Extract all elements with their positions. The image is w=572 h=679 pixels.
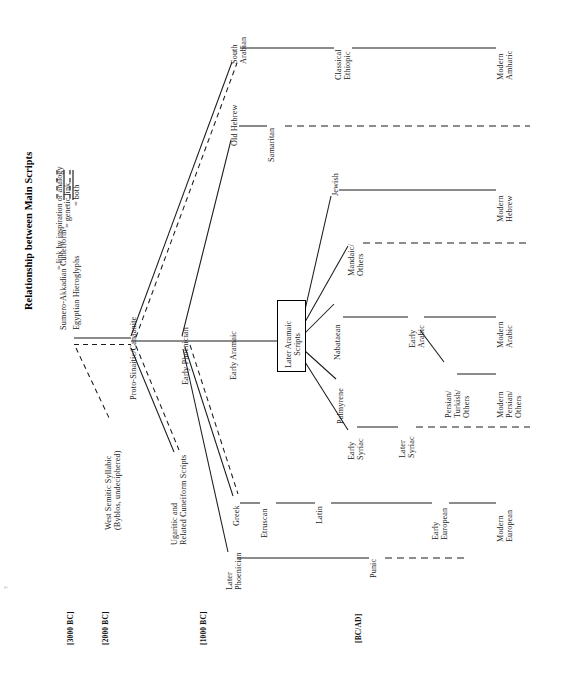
timeline-marker-1000bc: [1000 BC]	[199, 611, 208, 645]
node-label-early-arabic: Early Arabic	[408, 325, 426, 348]
node-label-modern-hebrew: Modern Hebrew	[496, 195, 514, 222]
node-label-early-arabic-line2: Arabic	[417, 325, 426, 348]
node-label-latin: Latin	[315, 506, 324, 524]
legend-label-both: = both	[72, 185, 81, 206]
node-label-early-syriac-line1: Early	[347, 438, 356, 460]
timeline-marker-bcad: [BC/AD]	[354, 614, 363, 643]
node-label-egyptian-hieroglyphs: Egyptian Hieroglyphs	[72, 256, 81, 330]
edge-protosinaitic-southarabian-dashed	[136, 63, 237, 337]
node-label-modern-persian-others: Modern Persian/ Others	[496, 391, 524, 418]
node-label-persian-turkish-others: Persian/ Turkish/ Others	[444, 390, 472, 418]
node-label-later-phoenician: Later Phoenician	[225, 552, 243, 590]
edge-protosinaitic-ugaritic-dashed	[136, 346, 179, 450]
legend-label-genetic: = genetic link	[63, 183, 72, 228]
node-label-later-phoenician-line1: Later	[225, 552, 234, 590]
node-label-modern-amharic-line1: Modern	[496, 51, 505, 80]
node-label-classical-ethiopic: Classical Ethiopic	[334, 49, 352, 80]
node-label-jewish: Jewish	[331, 173, 340, 196]
node-label-west-semitic-syllabic-line1: West Semitic Syllabic	[104, 451, 113, 531]
node-label-later-aramaic-line2: Scripts	[293, 321, 302, 368]
node-label-west-semitic-syllabic-line2: (Byblos, undeciphered)	[113, 451, 122, 531]
node-label-south-arabian-line1: South	[230, 37, 239, 64]
node-label-later-syriac-line2: Syriac	[407, 436, 416, 458]
node-label-modern-hebrew-line2: Hebrew	[505, 195, 514, 222]
node-label-early-european: Early European	[431, 508, 449, 540]
node-label-early-syriac-line2: Syriac	[356, 438, 365, 460]
node-label-west-semitic-syllabic: West Semitic Syllabic (Byblos, undeciphe…	[104, 451, 122, 531]
edge-egyptian-westsemitic	[76, 348, 110, 420]
node-label-modern-arabic-line2: Arabic	[505, 321, 514, 348]
node-label-persian-turkish-line2: Turkish/	[453, 390, 462, 418]
node-label-palmyrene: Palmyrene	[336, 388, 345, 424]
node-label-modern-arabic-line1: Modern	[496, 321, 505, 348]
node-label-modern-persian-line2: Persian/	[505, 391, 514, 418]
edge-earlyphoenician-oldhebrew	[182, 140, 231, 336]
edge-lateraramaic-nabataean	[305, 304, 334, 333]
node-label-sumero-akkadian-cuneiform: Sumero-Akkadian Cuneiform	[59, 229, 68, 330]
node-label-later-aramaic-line1: Later Aramaic	[284, 321, 293, 368]
node-label-early-european-line1: Early	[431, 508, 440, 540]
node-label-samaritan: Samaritan	[267, 128, 276, 162]
node-label-early-arabic-line1: Early	[408, 325, 417, 348]
node-label-ugaritic-line1: Ugaritic and	[170, 455, 179, 545]
node-label-south-arabian: South Arabian	[230, 37, 248, 64]
node-label-south-arabian-line2: Arabian	[239, 37, 248, 64]
scan-artifact	[4, 585, 10, 590]
node-label-later-phoenician-line2: Phoenician	[234, 552, 243, 590]
node-label-modern-persian-line1: Modern	[496, 391, 505, 418]
node-label-ugaritic-related-cuneiform: Ugaritic and Related Cuneiform Scripts	[170, 455, 188, 545]
node-label-classical-ethiopic-line1: Classical	[334, 49, 343, 80]
node-label-modern-persian-line3: Others	[514, 391, 523, 418]
edge-protosinaitic-southarabian-solid	[131, 62, 232, 336]
node-label-old-hebrew: Old Hebrew	[230, 105, 239, 146]
node-label-modern-european-line2: European	[505, 510, 514, 542]
node-label-nabataean: Nabataean	[333, 324, 342, 360]
node-label-proto-sinaitic-canaanite: Proto-Sinaitic/Canaanite	[129, 317, 138, 400]
node-label-early-syriac: Early Syriac	[347, 438, 365, 460]
node-label-early-european-line2: European	[440, 508, 449, 540]
node-label-ugaritic-line2: Related Cuneiform Scripts	[179, 455, 188, 545]
edge-lateraramaic-jewish	[305, 196, 331, 310]
timeline-marker-2000bc: [2000 BC]	[101, 611, 110, 645]
node-label-etruscan: Etruscan	[260, 508, 269, 538]
node-label-mandaic-others: Mandaic/ Others	[347, 244, 365, 276]
figure-title: Relationship between Main Scripts	[23, 152, 34, 310]
node-label-modern-arabic: Modern Arabic	[496, 321, 514, 348]
node-label-early-phoenician: Early Phoenician	[181, 327, 190, 385]
node-label-mandaic-line2: Others	[356, 244, 365, 276]
node-label-later-aramaic-scripts: Later Aramaic Scripts	[284, 321, 303, 368]
edge-earlyphoenician-greek-solid	[185, 347, 233, 496]
script-genealogy-figure: Relationship between Main Scripts = link…	[0, 0, 572, 679]
node-label-persian-turkish-line3: Others	[462, 390, 471, 418]
timeline-marker-3000bc: [3000 BC]	[66, 611, 75, 645]
node-label-modern-amharic: Modern Amharic	[496, 51, 514, 80]
node-label-mandaic-line1: Mandaic/	[347, 244, 356, 276]
node-label-later-syriac: Later Syriac	[398, 436, 416, 458]
node-label-persian-turkish-line1: Persian/	[444, 390, 453, 418]
node-label-early-aramaic: Early Aramaic	[229, 331, 238, 380]
edge-lateraramaic-palmyrene	[305, 351, 336, 379]
node-label-modern-european-line1: Modern	[496, 510, 505, 542]
node-label-greek: Greek	[232, 505, 241, 526]
node-label-modern-hebrew-line1: Modern	[496, 195, 505, 222]
node-label-modern-european: Modern European	[496, 510, 514, 542]
node-label-later-syriac-line1: Later	[398, 436, 407, 458]
node-label-classical-ethiopic-line2: Ethiopic	[343, 49, 352, 80]
node-label-modern-amharic-line2: Amharic	[505, 51, 514, 80]
node-label-punic: Punic	[369, 559, 378, 578]
